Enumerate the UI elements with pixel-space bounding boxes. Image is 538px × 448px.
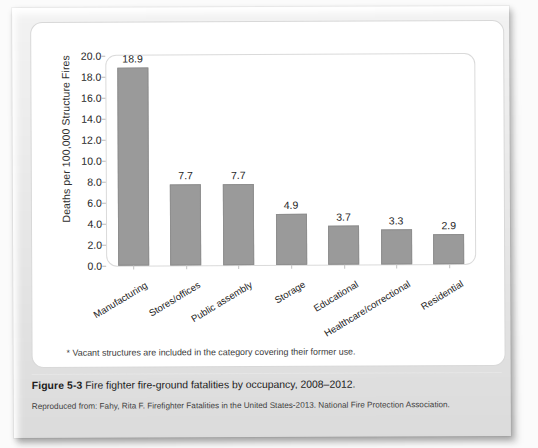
- x-axis-tick-mark: [344, 265, 345, 269]
- y-axis-tick-label: 12.0: [56, 134, 102, 146]
- bar-value-label: 2.9: [427, 219, 471, 231]
- figure-number: Figure 5-3: [32, 380, 83, 391]
- figure-box: Deaths per 100,000 Structure Fires 20.01…: [30, 20, 506, 368]
- bar: [275, 213, 306, 265]
- bar: [117, 67, 149, 266]
- bar: [381, 230, 412, 265]
- y-axis-tick-label: 20.0: [55, 50, 101, 62]
- y-axis-tick-label: 6.0: [56, 197, 102, 209]
- x-axis-tick-label: Manufacturing: [92, 279, 150, 320]
- plot-area: 20.018.016.014.012.010.08.06.04.02.00.01…: [105, 53, 476, 267]
- y-axis-tick-label: 0.0: [56, 260, 102, 272]
- y-axis-tick-mark: [102, 119, 106, 120]
- scanned-background: Deaths per 100,000 Structure Fires 20.01…: [0, 0, 538, 448]
- y-axis-tick-label: 16.0: [55, 92, 101, 104]
- y-axis-tick-mark: [102, 161, 106, 162]
- y-axis-tick-label: 4.0: [56, 218, 102, 230]
- bar-value-label: 3.7: [322, 211, 366, 223]
- y-axis-tick-mark: [102, 182, 106, 183]
- y-axis-tick-mark: [101, 56, 105, 57]
- y-axis-tick-mark: [101, 98, 105, 99]
- y-axis-tick-label: 10.0: [56, 155, 102, 167]
- caption-divider: [32, 372, 502, 375]
- x-axis-tick-mark: [133, 266, 134, 270]
- book-page: Deaths per 100,000 Structure Fires 20.01…: [12, 6, 511, 438]
- x-axis-tick-mark: [186, 265, 187, 269]
- x-axis-tick-mark: [449, 264, 450, 268]
- bar-chart: Deaths per 100,000 Structure Fires 20.01…: [31, 21, 504, 323]
- figure-caption: Figure 5-3 Fire fighter fire-ground fata…: [32, 378, 492, 391]
- x-axis-tick-label: Storage: [273, 279, 307, 306]
- x-axis-tick-mark: [291, 265, 292, 269]
- bar: [223, 184, 254, 265]
- x-axis-tick-label: Educational: [311, 278, 360, 313]
- y-axis-tick-label: 14.0: [56, 113, 102, 125]
- y-axis-tick-mark: [102, 140, 106, 141]
- bar-value-label: 3.3: [374, 215, 418, 227]
- figure-caption-text: Fire fighter fire-ground fatalities by o…: [85, 379, 355, 391]
- y-axis-tick-mark: [102, 266, 106, 267]
- y-axis-tick-mark: [102, 203, 106, 204]
- bar: [170, 184, 201, 265]
- bar: [328, 226, 359, 265]
- x-axis-tick-mark: [396, 264, 397, 268]
- bar: [433, 234, 464, 265]
- bar-value-label: 18.9: [111, 52, 155, 64]
- y-axis-tick-mark: [101, 77, 105, 78]
- bar-value-label: 7.7: [164, 169, 208, 181]
- y-axis-tick-label: 18.0: [55, 71, 101, 83]
- chart-footnote: * Vacant structures are included in the …: [67, 347, 356, 358]
- figure-credit: Reproduced from: Fahy, Rita F. Firefight…: [32, 400, 502, 411]
- y-axis-tick-label: 2.0: [56, 239, 102, 251]
- x-axis-tick-label: Healthcare/correctional: [322, 278, 412, 339]
- x-axis-tick-mark: [239, 265, 240, 269]
- bar-value-label: 4.9: [269, 198, 313, 210]
- y-axis-tick-mark: [102, 245, 106, 246]
- y-axis-tick-label: 8.0: [56, 176, 102, 188]
- x-axis-tick-label: Residential: [419, 278, 465, 312]
- y-axis-tick-mark: [102, 224, 106, 225]
- bar-value-label: 7.7: [216, 169, 260, 181]
